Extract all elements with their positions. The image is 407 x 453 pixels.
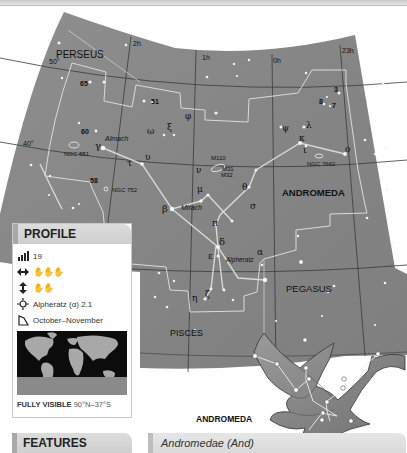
latin-name-bar: Andromedae (And) [148, 433, 406, 453]
features-panel: FEATURES [12, 433, 132, 453]
greek-sigma: σ [250, 201, 256, 211]
features-title: FEATURES [12, 433, 132, 453]
label-perseus: PERSEUS [56, 49, 104, 60]
visibility-label: FULLY VISIBLE [17, 400, 72, 409]
m110-label: M110 [211, 155, 226, 161]
greek-mu: μ [197, 184, 203, 194]
label-andromeda: ANDROMEDA [282, 187, 345, 198]
greek-eta: η [192, 293, 197, 303]
ra-label-23h: 23h [342, 47, 354, 54]
ngc-881-label: NGC 881 [64, 151, 90, 157]
star-name-mirach: Mirach [181, 204, 202, 211]
label-pegasus: PEGASUS [286, 283, 332, 294]
width-arrows-icon [17, 266, 29, 278]
star-51-label: 51 [151, 98, 159, 105]
ra-label-1h: 1h [202, 54, 210, 61]
star-name-alpheratz: Alpheratz [225, 256, 254, 264]
greek-epsilon: ε [208, 251, 213, 261]
profile-star-count: 19 [33, 252, 42, 261]
greek-gamma: γ [95, 140, 101, 151]
brightness-bars-icon [17, 250, 29, 262]
star-60-label: 60 [81, 128, 89, 135]
profile-row-width: ✋✋✋ [13, 264, 131, 280]
star-8-label: 8 [319, 98, 323, 105]
greek-kappa: κ [299, 133, 305, 143]
greek-theta: θ [242, 182, 247, 192]
greek-delta: δ [219, 236, 225, 247]
profile-panel: PROFILE 19 ✋✋✋ ✋✋ Alpheratz (α) 2.1 Octo… [12, 223, 132, 418]
profile-row-stars: 19 [13, 248, 131, 264]
hand-span-icon: ✋✋ [33, 283, 53, 293]
greek-nu: ν [196, 165, 201, 175]
visibility-range: 90°N–37°S [74, 400, 111, 409]
greek-omicron: ο [345, 144, 350, 154]
hand-span-icon: ✋✋✋ [33, 267, 63, 277]
profile-season: October–November [33, 316, 103, 325]
profile-row-season: October–November [13, 312, 131, 328]
greek-psi: ψ [282, 123, 289, 133]
world-visibility-map [17, 331, 127, 395]
ngc-752-label: NGC 752 [112, 187, 138, 193]
greek-phi: φ [185, 111, 191, 121]
greek-tau: τ [127, 158, 132, 168]
greek-beta: β [162, 203, 168, 214]
star-name-almach: Almach [104, 135, 128, 142]
profile-brightest-star: Alpheratz (α) 2.1 [33, 300, 92, 309]
greek-iota: ι [303, 145, 307, 155]
greek-lambda: λ [306, 120, 312, 130]
not-visible-region [17, 377, 127, 395]
profile-title: PROFILE [13, 224, 131, 244]
greek-alpha: α [257, 247, 263, 257]
star-7-label: 7 [332, 102, 336, 109]
greek-zeta: ζ [205, 289, 210, 299]
figure-label-andromeda: ANDROMEDA [196, 414, 252, 424]
profile-row-height: ✋✋ [13, 280, 131, 296]
label-pisces: PISCES [170, 328, 203, 338]
star-65-label: 65 [80, 80, 88, 87]
greek-pi: π [212, 218, 218, 228]
dec-label-40: 40° [23, 140, 34, 147]
dec-label-50: 50° [49, 58, 60, 65]
brightest-star-icon [17, 298, 29, 310]
ra-label-0h: 0h [273, 57, 281, 64]
profile-row-brightest: Alpheratz (α) 2.1 [13, 296, 131, 312]
height-arrows-icon [17, 282, 29, 294]
greek-upsilon: υ [145, 152, 151, 162]
star-3-label: 3 [334, 86, 338, 93]
star-58-label: 58 [90, 177, 98, 184]
m32-label: M32 [221, 172, 233, 178]
ngc-7662-label: NGC 7662 [307, 161, 336, 167]
ra-label-2h: 2h [133, 40, 141, 47]
greek-omega: ω [147, 126, 154, 136]
season-corner-icon [17, 314, 29, 326]
greek-xi: ξ [167, 122, 172, 132]
visibility-info: FULLY VISIBLE 90°N–37°S [13, 395, 131, 414]
